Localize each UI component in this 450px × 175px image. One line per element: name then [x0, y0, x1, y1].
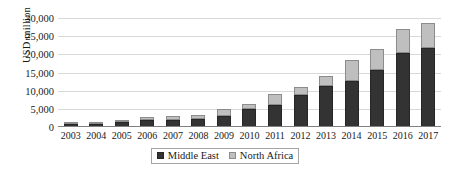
bar-segment-north-africa[interactable] — [421, 23, 435, 48]
x-axis-tick-label: 2010 — [237, 130, 263, 141]
x-axis-tick-label: 2013 — [313, 130, 339, 141]
bar-segment-north-africa[interactable] — [217, 109, 231, 116]
y-axis-tick-label: 15,000 — [25, 67, 54, 78]
bar-segment-north-africa[interactable] — [370, 49, 384, 70]
legend-item[interactable]: North Africa — [229, 150, 293, 161]
bar-segment-north-africa[interactable] — [319, 76, 333, 86]
legend-swatch-icon — [157, 152, 164, 159]
bar-segment-middle-east[interactable] — [268, 105, 282, 127]
legend: Middle EastNorth Africa — [0, 148, 450, 164]
bar-column[interactable] — [89, 18, 103, 127]
x-axis-tick-label: 2009 — [211, 130, 237, 141]
bar-column[interactable] — [64, 18, 78, 127]
y-axis-tick-label: 25,000 — [25, 31, 54, 42]
x-axis-tick-label: 2004 — [84, 130, 110, 141]
y-axis-tick-label: 5,000 — [30, 103, 54, 114]
x-axis-tick-label: 2017 — [415, 130, 441, 141]
legend-box: Middle EastNorth Africa — [151, 148, 299, 164]
x-axis-tick-label: 2015 — [364, 130, 390, 141]
bar-series-group — [58, 18, 441, 127]
bar-segment-north-africa[interactable] — [294, 87, 308, 95]
y-axis-tick-label: 30,000 — [25, 13, 54, 24]
x-axis-tick-label: 2006 — [135, 130, 161, 141]
x-axis-tick-label: 2007 — [160, 130, 186, 141]
x-axis-tick-label: 2003 — [58, 130, 84, 141]
bar-column[interactable] — [294, 18, 308, 127]
x-axis-tick-label: 2014 — [339, 130, 365, 141]
bar-chart: USD million 30,00025,00020,00015,00010,0… — [0, 0, 450, 175]
bar-column[interactable] — [191, 18, 205, 127]
bar-column[interactable] — [421, 18, 435, 127]
bar-segment-middle-east[interactable] — [242, 109, 256, 127]
bar-segment-north-africa[interactable] — [345, 60, 359, 81]
x-axis-tick-label: 2005 — [109, 130, 135, 141]
x-axis-line — [58, 126, 441, 127]
y-axis-tick-label: 10,000 — [25, 85, 54, 96]
plot-area — [58, 18, 441, 127]
bar-segment-north-africa[interactable] — [396, 29, 410, 53]
legend-label: North Africa — [240, 150, 293, 161]
bar-segment-middle-east[interactable] — [421, 48, 435, 127]
bar-segment-middle-east[interactable] — [319, 86, 333, 127]
bar-column[interactable] — [268, 18, 282, 127]
bar-column[interactable] — [345, 18, 359, 127]
legend-label: Middle East — [168, 150, 219, 161]
bar-column[interactable] — [242, 18, 256, 127]
x-axis-tick-label: 2012 — [288, 130, 314, 141]
bar-column[interactable] — [140, 18, 154, 127]
bar-column[interactable] — [319, 18, 333, 127]
bar-column[interactable] — [115, 18, 129, 127]
x-axis-tick-labels: 2003200420052006200720082009201020112012… — [58, 130, 441, 141]
y-axis-tick-labels: 30,00025,00020,00015,00010,0005,0000 — [0, 18, 54, 127]
bar-column[interactable] — [166, 18, 180, 127]
bar-column[interactable] — [370, 18, 384, 127]
bar-segment-middle-east[interactable] — [370, 70, 384, 127]
bar-column[interactable] — [396, 18, 410, 127]
bar-segment-middle-east[interactable] — [294, 95, 308, 127]
bar-column[interactable] — [217, 18, 231, 127]
x-axis-tick-label: 2016 — [390, 130, 416, 141]
legend-item[interactable]: Middle East — [157, 150, 219, 161]
bar-segment-north-africa[interactable] — [268, 94, 282, 105]
bar-segment-middle-east[interactable] — [345, 81, 359, 127]
x-axis-tick-label: 2008 — [186, 130, 212, 141]
y-axis-tick-label: 20,000 — [25, 49, 54, 60]
bar-segment-middle-east[interactable] — [396, 53, 410, 127]
x-axis-tick-label: 2011 — [262, 130, 288, 141]
y-axis-tick-label: 0 — [49, 122, 54, 133]
legend-swatch-icon — [229, 152, 236, 159]
